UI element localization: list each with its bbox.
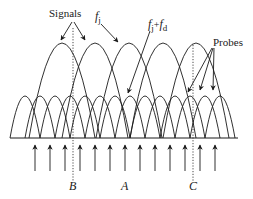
probes-pointer-2 xyxy=(200,48,213,90)
label-pointer-arrows xyxy=(61,22,214,93)
probe-arc xyxy=(100,96,130,138)
fj-plus-fd-label: fj+fd xyxy=(148,18,167,33)
marker-dotted-lines xyxy=(73,28,193,182)
signal-arc xyxy=(29,43,95,138)
marker-b-label: B xyxy=(69,180,76,192)
signal-probe-diagram xyxy=(0,0,253,199)
probe-arc xyxy=(25,96,55,138)
probe-arc xyxy=(55,96,85,138)
probes-pointer-1 xyxy=(188,48,212,92)
fj-pointer xyxy=(101,24,118,42)
probe-arc xyxy=(145,96,175,138)
marker-c-label: C xyxy=(189,180,197,192)
marker-a-label: A xyxy=(121,180,128,192)
signals-label: Signals xyxy=(49,8,81,19)
signal-arc xyxy=(163,43,229,138)
diagram-canvas: Signals fj fj+fd Probes B A C xyxy=(0,0,253,199)
signals-pointer-left xyxy=(61,22,72,40)
fjfd-pointer xyxy=(128,31,150,93)
probes-label: Probes xyxy=(213,37,243,48)
fj-label: fj xyxy=(95,10,101,25)
signals-pointer-right xyxy=(74,22,85,40)
probe-arrows xyxy=(35,145,215,171)
probe-arc xyxy=(115,96,145,138)
probe-arc xyxy=(70,96,100,138)
small-probe-arcs xyxy=(10,96,235,138)
probe-arc xyxy=(175,96,205,138)
probes-pointer-3 xyxy=(213,48,214,90)
fj-subscript: j xyxy=(98,15,101,25)
fjfd-sub-d: d xyxy=(163,23,168,33)
probe-arc xyxy=(205,96,235,138)
probe-arc xyxy=(40,96,70,138)
